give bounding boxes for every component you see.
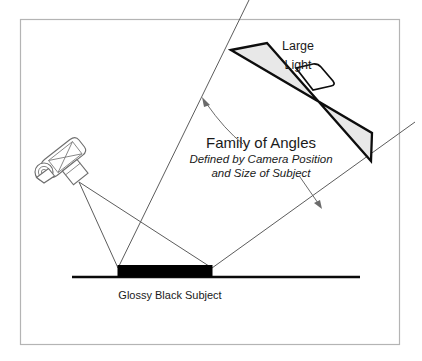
family-of-angles-title: Family of Angles [206, 134, 316, 151]
glossy-black-subject-caption: Glossy Black Subject [118, 289, 221, 301]
family-of-angles-subtitle-line2: and Size of Subject [211, 167, 311, 179]
diagram-canvas: Large Light Family of Angles Defined by … [0, 0, 422, 361]
large-light-label-line1: Large [282, 39, 314, 53]
lighting-diagram-figure: Large Light Family of Angles Defined by … [0, 0, 422, 361]
glossy-black-subject-bar [118, 266, 212, 277]
family-of-angles-subtitle-line1: Defined by Camera Position [189, 153, 332, 165]
large-light-label-line2: Light [284, 58, 312, 72]
